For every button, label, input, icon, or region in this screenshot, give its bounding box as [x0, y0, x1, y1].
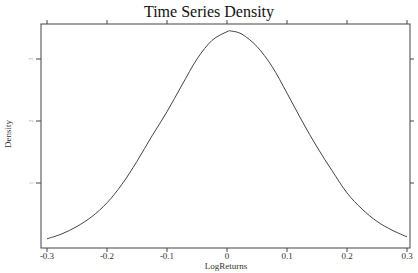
x-tick-label: 0.3 [401, 251, 413, 261]
y-tick-label: 1 [28, 182, 34, 185]
x-axis-ticks: -0.3-0.2-0.100.10.20.3 [40, 20, 413, 261]
x-tick-label: -0.1 [160, 251, 174, 261]
x-tick-label: 0 [225, 251, 230, 261]
density-curve [47, 31, 407, 239]
plot-frame [41, 24, 410, 248]
y-tick-label: 2 [28, 120, 34, 123]
y-axis-label: Density [3, 114, 13, 154]
y-axis-ticks: 123 [28, 58, 414, 185]
x-tick-label: -0.3 [40, 251, 55, 261]
density-chart: -0.3-0.2-0.100.10.20.3 123 [0, 0, 418, 273]
x-tick-label: 0.2 [341, 251, 352, 261]
y-tick-label: 3 [28, 58, 34, 61]
x-tick-label: 0.1 [281, 251, 292, 261]
x-tick-label: -0.2 [100, 251, 114, 261]
x-axis-label: LogReturns [186, 261, 266, 271]
